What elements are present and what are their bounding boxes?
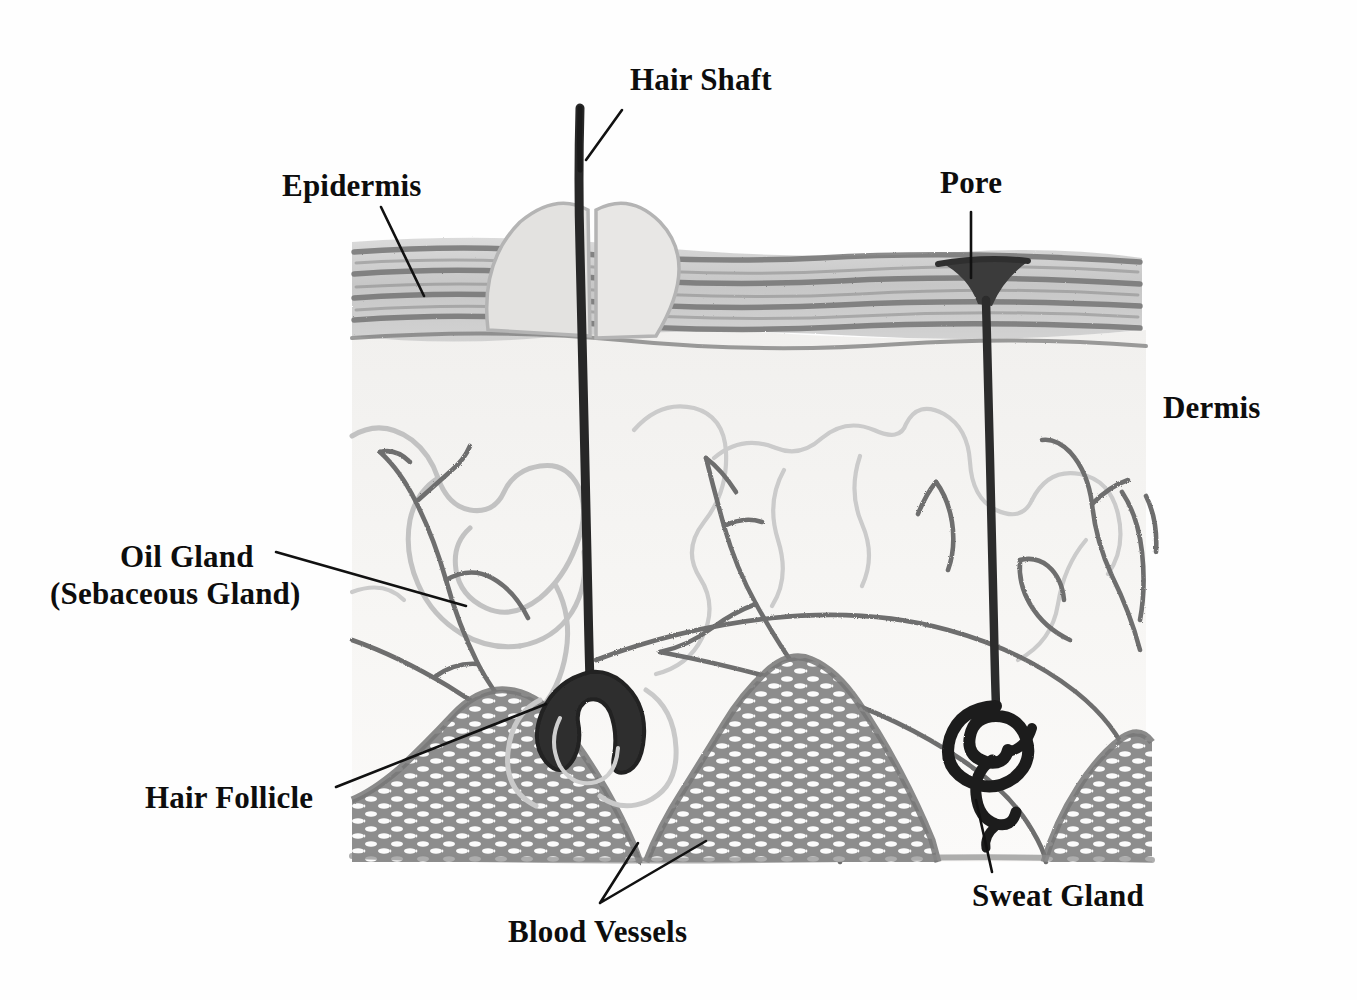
label-epidermis: Epidermis: [282, 168, 422, 204]
diagram-artwork: [0, 0, 1357, 1000]
epidermis-layer: [352, 238, 1146, 348]
label-blood-vessels: Blood Vessels: [508, 914, 687, 950]
skin-cross-section-diagram: Hair Shaft Epidermis Pore Dermis Oil Gla…: [0, 0, 1357, 1000]
label-sebaceous-gland: (Sebaceous Gland): [50, 575, 301, 613]
label-hair-shaft: Hair Shaft: [630, 62, 772, 98]
label-dermis: Dermis: [1163, 390, 1261, 426]
label-pore: Pore: [940, 165, 1002, 201]
label-oil-gland: Oil Gland: [120, 538, 254, 576]
label-sweat-gland: Sweat Gland: [972, 878, 1144, 914]
label-hair-follicle: Hair Follicle: [145, 780, 313, 816]
leader-hair-shaft: [586, 110, 622, 160]
